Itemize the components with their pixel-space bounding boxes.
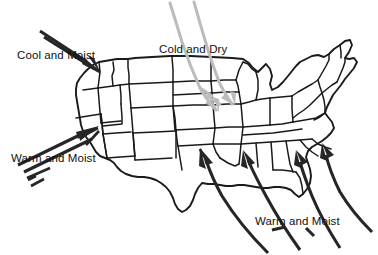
label-cold-and-dry: Cold and Dry: [159, 43, 227, 56]
label-warm-and-moist-west: Warm and Moist: [11, 152, 96, 165]
label-warm-and-moist-southeast: Warm and Moist: [255, 215, 340, 228]
air-mass-diagram: Cool and Moist Cold and Dry Warm and Moi…: [0, 0, 378, 255]
label-cool-and-moist: Cool and Moist: [17, 49, 95, 62]
